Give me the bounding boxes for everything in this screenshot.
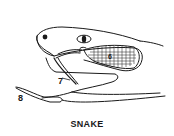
pupil-icon [82, 35, 86, 42]
label-tongue: 8 [18, 94, 23, 103]
neck-upper-line [140, 41, 163, 46]
throat-line-lower [62, 96, 165, 102]
label-venom-gland: 6 [108, 53, 112, 60]
neck-lower-line [72, 92, 160, 94]
nostril-icon [43, 35, 48, 40]
label-fang: 7 [58, 77, 63, 86]
figure-caption: SNAKE [0, 119, 174, 129]
leader-line-7 [62, 78, 70, 80]
snake-head-illustration [0, 0, 174, 136]
